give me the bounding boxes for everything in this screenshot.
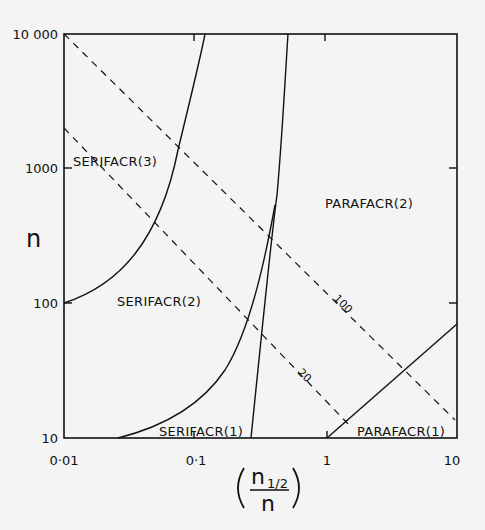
x-tick-0.1: 0·1 bbox=[186, 453, 207, 468]
y-tick-100: 100 bbox=[33, 296, 58, 311]
curve-serif2-serif1-boundary bbox=[118, 205, 275, 438]
plot-frame bbox=[64, 34, 457, 438]
dashed-line-n-half-20 bbox=[64, 128, 352, 428]
y-ticks-left bbox=[64, 168, 72, 303]
label-dashed-20: 20 bbox=[295, 366, 314, 385]
y-ticks-right bbox=[449, 168, 457, 303]
y-tick-10000: 10 000 bbox=[13, 27, 59, 42]
label-parafacr2: PARAFACR(2) bbox=[325, 196, 413, 211]
y-axis-label: n bbox=[26, 225, 41, 253]
dashed-line-n-half-100 bbox=[64, 34, 455, 420]
label-parafacr1: PARAFACR(1) bbox=[357, 424, 445, 439]
line-parafacr2-parafacr1-boundary bbox=[327, 324, 457, 438]
x-tick-10: 10 bbox=[444, 453, 461, 468]
label-serifacr2: SERIFACR(2) bbox=[117, 294, 201, 309]
y-tick-1000: 1000 bbox=[25, 161, 58, 176]
x-label-subscript: 1/2 bbox=[267, 476, 288, 491]
x-label-denominator: n bbox=[261, 491, 275, 516]
right-paren bbox=[293, 468, 299, 508]
x-axis-label: n 1/2 n bbox=[238, 464, 299, 516]
chart: 10 000 1000 100 10 0·01 0·1 1 10 n n 1/2… bbox=[0, 0, 485, 530]
x-tick-1: 1 bbox=[323, 453, 331, 468]
left-paren bbox=[238, 468, 244, 508]
x-tick-0.01: 0·01 bbox=[50, 453, 79, 468]
label-serifacr3: SERIFACR(3) bbox=[73, 154, 157, 169]
label-dashed-100: 100 bbox=[331, 292, 355, 316]
label-serifacr1: SERIFACR(1) bbox=[159, 424, 243, 439]
y-tick-10: 10 bbox=[41, 431, 58, 446]
x-label-numerator: n bbox=[251, 464, 265, 489]
